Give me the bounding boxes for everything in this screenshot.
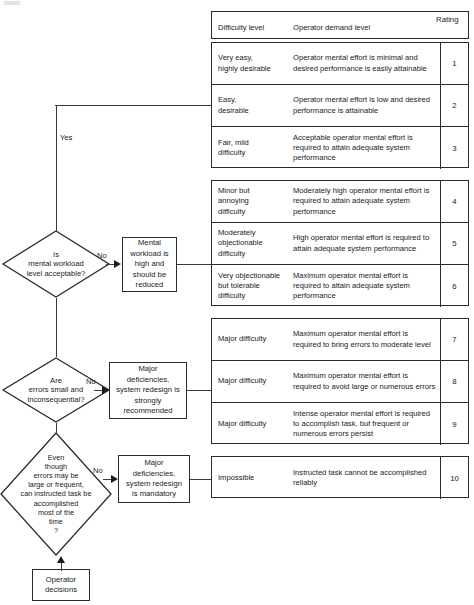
cell-rating: 10: [441, 457, 468, 499]
table-row: Impossible Instructed task cannot be acc…: [212, 457, 468, 499]
cell-rating: 9: [441, 403, 468, 445]
cell-demand: High operator mental effort is required …: [288, 223, 441, 264]
cell-difficulty: Minor butannoyingdifficulty: [212, 181, 288, 222]
table-header-group: Difficulty level Operator demand level R…: [211, 11, 469, 39]
edge-label-no-2: No: [86, 377, 96, 386]
connector-no3-arrowhead: [111, 475, 118, 483]
cell-rating: 8: [441, 361, 468, 402]
connector-start-to-d3: [61, 563, 62, 571]
cell-demand: Moderately high operator mental effort i…: [288, 181, 441, 222]
cell-demand: Intense operator mental effort is requir…: [288, 403, 441, 445]
cell-demand: Operator mental effort is low and desire…: [288, 85, 441, 126]
edge-label-yes: Yes: [60, 133, 72, 142]
table-row: Very easy,highly desirable Operator ment…: [212, 43, 468, 85]
rating-scale-diagram: Difficulty level Operator demand level R…: [0, 0, 474, 605]
cell-demand: Operator mental effort is minimal and de…: [288, 43, 441, 84]
table-group-major-deficiencies: Major difficulty Maximum operator mental…: [211, 318, 469, 444]
decision-mental-workload-acceptable[interactable]: Ismental workloadlevel acceptable?: [2, 230, 110, 298]
cell-rating: 3: [441, 127, 468, 169]
table-group-impossible: Impossible Instructed task cannot be acc…: [211, 456, 469, 498]
cell-difficulty: Moderatelyobjectionabledifficulty: [212, 223, 288, 264]
cell-demand: Instructed task cannot be accomplished r…: [288, 457, 441, 499]
cell-difficulty: Very easy,highly desirable: [212, 43, 288, 84]
table-row: Major difficulty Intense operator mental…: [212, 403, 468, 445]
header-rating: Rating: [434, 12, 468, 38]
connector-no2-arrowhead: [102, 386, 109, 394]
cell-demand: Maximum operator mental effort is requir…: [288, 319, 441, 360]
start-operator-decisions[interactable]: Operatordecisions: [32, 569, 90, 601]
table-row: Fair, milddifficulty Acceptable operator…: [212, 127, 468, 169]
cell-difficulty: Major difficulty: [212, 361, 288, 402]
table-header-row: Difficulty level Operator demand level R…: [212, 12, 468, 38]
diamond-shape: [2, 230, 110, 298]
cell-difficulty: Impossible: [212, 457, 288, 499]
edge-label-no-1: No: [97, 251, 107, 260]
cell-difficulty: Easy,desirable: [212, 85, 288, 126]
cell-demand: Maximum operator mental effort is requir…: [288, 265, 441, 307]
connector-start-arrowhead: [57, 556, 65, 563]
connector-yes-vertical: [56, 105, 57, 231]
cell-difficulty: Major difficulty: [212, 403, 288, 445]
table-row: Easy,desirable Operator mental effort is…: [212, 85, 468, 127]
cell-rating: 2: [441, 85, 468, 126]
page-corner-artifact: [4, 1, 20, 5]
connector-yes-horizontal: [55, 105, 211, 106]
connector-box1-to-table: [177, 264, 211, 265]
cell-rating: 4: [441, 181, 468, 222]
outcome-mental-workload-high[interactable]: Mentalworkload ishigh andshould bereduce…: [122, 237, 177, 292]
cell-difficulty: Major difficulty: [212, 319, 288, 360]
connector-box3-to-table: [190, 479, 211, 480]
cell-difficulty: Fair, milddifficulty: [212, 127, 288, 169]
header-difficulty-level: Difficulty level: [212, 12, 288, 38]
cell-difficulty: Very objectionablebut tolerabledifficult…: [212, 265, 288, 307]
table-group-high-workload: Minor butannoyingdifficulty Moderately h…: [211, 180, 469, 306]
table-row: Minor butannoyingdifficulty Moderately h…: [212, 181, 468, 223]
outcome-redesign-mandatory[interactable]: Majordeficiencies,system redesignis mand…: [118, 455, 190, 503]
cell-rating: 1: [441, 43, 468, 84]
table-row: Very objectionablebut tolerabledifficult…: [212, 265, 468, 307]
connector-no1-arrowhead: [114, 260, 121, 268]
outcome-redesign-strongly-recommended[interactable]: Majordeficiencies,system redesign isstro…: [109, 362, 187, 419]
cell-demand: Acceptable operator mental effort is req…: [288, 127, 441, 169]
table-row: Major difficulty Maximum operator mental…: [212, 361, 468, 403]
cell-rating: 7: [441, 319, 468, 360]
connector-box2-to-table: [187, 390, 211, 391]
table-group-acceptable-workload: Very easy,highly desirable Operator ment…: [211, 42, 469, 168]
connector-d1-to-d2: [56, 298, 57, 357]
cell-rating: 6: [441, 265, 468, 307]
cell-demand: Maximum operator mental effort is requir…: [288, 361, 441, 402]
cell-rating: 5: [441, 223, 468, 264]
diamond-shape: [0, 432, 112, 556]
edge-label-no-3: No: [93, 466, 103, 475]
decision-task-accomplished-most-of-time[interactable]: Eventhougherrors may belarge or frequent…: [0, 432, 112, 556]
table-row: Moderatelyobjectionabledifficulty High o…: [212, 223, 468, 265]
table-row: Major difficulty Maximum operator mental…: [212, 319, 468, 361]
connector-d2-to-d3: [56, 423, 57, 433]
header-operator-demand-level: Operator demand level: [288, 12, 434, 38]
